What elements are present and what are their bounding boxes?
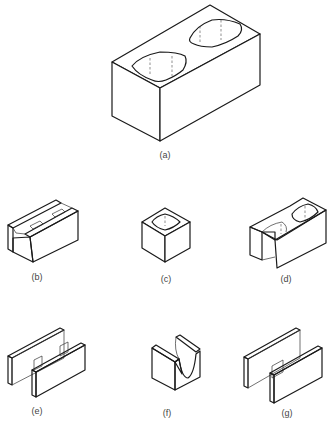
label-e: (e) bbox=[32, 406, 43, 416]
block-a-stretcher bbox=[112, 5, 260, 141]
label-f: (f) bbox=[163, 408, 172, 418]
label-c: (c) bbox=[161, 274, 172, 284]
block-g-h-block bbox=[244, 328, 322, 403]
block-d-open-end bbox=[250, 198, 326, 268]
block-e-double-open-end bbox=[8, 328, 85, 397]
label-g: (g) bbox=[282, 408, 293, 418]
label-d: (d) bbox=[281, 274, 292, 284]
block-b-bond-beam bbox=[8, 200, 78, 262]
block-f-lintel bbox=[152, 335, 200, 390]
label-b: (b) bbox=[32, 272, 43, 282]
masonry-units-figure: (a) (b) (c) (d) (e) (f) (g) bbox=[0, 0, 333, 425]
block-c-column bbox=[142, 208, 190, 262]
label-a: (a) bbox=[160, 150, 171, 160]
